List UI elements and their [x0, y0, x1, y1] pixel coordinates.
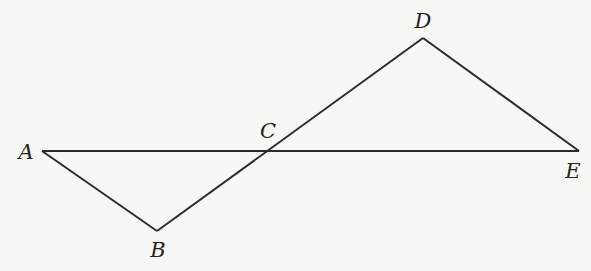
- diagram-svg: A B C D E: [0, 0, 591, 271]
- label-b: B: [149, 238, 165, 262]
- label-e: E: [564, 159, 580, 183]
- label-c: C: [260, 119, 276, 143]
- label-d: D: [414, 9, 432, 33]
- label-a: A: [16, 140, 33, 164]
- geometry-diagram: A B C D E: [0, 0, 591, 271]
- segment-bd: [157, 38, 423, 231]
- segment-de: [423, 38, 579, 151]
- segment-ab: [42, 151, 157, 231]
